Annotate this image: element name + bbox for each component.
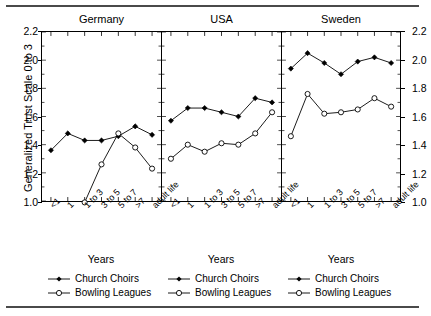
y-tick-label: 1.8	[12, 83, 38, 93]
open-circle-marker-icon	[167, 288, 191, 298]
y-tick-mark	[401, 31, 405, 32]
legend-label: Bowling Leagues	[195, 287, 271, 298]
x-tick-labels: <111 to 33 to 55 to 7>7adult life	[161, 203, 281, 249]
data-point-bowling-leagues[interactable]	[149, 166, 154, 171]
data-point-bowling-leagues[interactable]	[219, 141, 224, 146]
open-circle-marker-icon	[287, 288, 311, 298]
panel-germany: Germany	[41, 31, 161, 202]
legend: Church ChoirsBowling Leagues	[287, 272, 407, 302]
panel-sweden: Sweden	[281, 31, 401, 202]
y-tick-label: 2.2	[12, 26, 38, 36]
data-point-bowling-leagues[interactable]	[236, 142, 241, 147]
y-axis-left: 1.01.21.41.61.82.02.2	[10, 31, 38, 202]
y-tick-label: 2.2	[412, 26, 431, 36]
data-point-church-choirs[interactable]	[372, 55, 377, 60]
data-point-church-choirs[interactable]	[202, 105, 207, 110]
legend-item-bowling-leagues[interactable]: Bowling Leagues	[287, 286, 391, 299]
y-axis-right: 1.01.21.41.61.82.02.2	[404, 31, 431, 202]
panel-title: Sweden	[282, 13, 400, 25]
y-tick-label: 1.4	[12, 140, 38, 150]
data-point-church-choirs[interactable]	[219, 110, 224, 115]
legend-item-church-choirs[interactable]: Church Choirs	[167, 272, 259, 285]
legend-label: Church Choirs	[195, 273, 259, 284]
data-point-bowling-leagues[interactable]	[168, 156, 173, 161]
data-point-bowling-leagues[interactable]	[202, 149, 207, 154]
open-circle-marker-icon	[47, 288, 71, 298]
data-point-bowling-leagues[interactable]	[185, 142, 190, 147]
data-point-church-choirs[interactable]	[269, 100, 274, 105]
legend-label: Church Choirs	[315, 273, 379, 284]
data-point-church-choirs[interactable]	[389, 60, 394, 65]
data-point-bowling-leagues[interactable]	[322, 111, 327, 116]
x-axis-title: Years	[281, 253, 401, 265]
y-tick-label: 1.6	[412, 112, 431, 122]
y-tick-label: 1.0	[12, 197, 38, 207]
plot-area	[42, 32, 161, 201]
y-tick-label: 1.2	[12, 169, 38, 179]
data-point-church-choirs[interactable]	[82, 138, 87, 143]
legend-item-church-choirs[interactable]: Church Choirs	[287, 272, 379, 285]
x-axis-title: Years	[41, 253, 161, 265]
legend-item-church-choirs[interactable]: Church Choirs	[47, 272, 139, 285]
y-tick-label: 1.2	[412, 169, 431, 179]
y-tick-label: 2.0	[12, 55, 38, 65]
data-point-bowling-leagues[interactable]	[288, 134, 293, 139]
data-point-bowling-leagues[interactable]	[133, 145, 138, 150]
bottom-rule	[6, 306, 419, 308]
data-point-bowling-leagues[interactable]	[372, 96, 377, 101]
panels-container: GermanyUSASweden	[41, 31, 401, 202]
legend-item-bowling-leagues[interactable]: Bowling Leagues	[167, 286, 271, 299]
data-point-bowling-leagues[interactable]	[116, 131, 121, 136]
data-point-bowling-leagues[interactable]	[99, 162, 104, 167]
y-tick-label: 2.0	[412, 55, 431, 65]
y-tick-label: 1.4	[412, 140, 431, 150]
data-point-bowling-leagues[interactable]	[269, 110, 274, 115]
plot-area	[282, 32, 400, 201]
top-rule	[6, 5, 419, 7]
y-tick-mark	[401, 88, 405, 89]
y-tick-mark	[401, 117, 405, 118]
y-tick-label: 1.6	[12, 112, 38, 122]
x-tick-labels: <111 to 33 to 55 to 7>7adult life	[41, 203, 161, 249]
data-point-church-choirs[interactable]	[133, 124, 138, 129]
filled-diamond-marker-icon	[167, 274, 191, 284]
y-tick-label: 1.8	[412, 83, 431, 93]
legend-label: Bowling Leagues	[75, 287, 151, 298]
data-point-bowling-leagues[interactable]	[253, 131, 258, 136]
y-tick-mark	[401, 145, 405, 146]
data-point-church-choirs[interactable]	[322, 60, 327, 65]
data-point-bowling-leagues[interactable]	[355, 107, 360, 112]
panel-usa: USA	[161, 31, 281, 202]
y-tick-label: 1.0	[412, 197, 431, 207]
filled-diamond-marker-icon	[287, 274, 311, 284]
data-point-church-choirs[interactable]	[149, 132, 154, 137]
y-tick-mark	[401, 174, 405, 175]
legend-item-bowling-leagues[interactable]: Bowling Leagues	[47, 286, 151, 299]
panel-title: Germany	[42, 13, 161, 25]
legend-label: Bowling Leagues	[315, 287, 391, 298]
filled-diamond-marker-icon	[47, 274, 71, 284]
x-axis-title: Years	[161, 253, 281, 265]
data-point-bowling-leagues[interactable]	[338, 110, 343, 115]
x-tick-labels: <111 to 33 to 55 to 7>7adult life	[281, 203, 401, 249]
legend: Church ChoirsBowling Leagues	[167, 272, 287, 302]
legend-label: Church Choirs	[75, 273, 139, 284]
plot-area	[162, 32, 281, 201]
legend: Church ChoirsBowling Leagues	[47, 272, 167, 302]
data-point-church-choirs[interactable]	[99, 138, 104, 143]
data-point-bowling-leagues[interactable]	[389, 104, 394, 109]
data-point-bowling-leagues[interactable]	[305, 91, 310, 96]
panel-title: USA	[162, 13, 281, 25]
y-tick-mark	[401, 60, 405, 61]
